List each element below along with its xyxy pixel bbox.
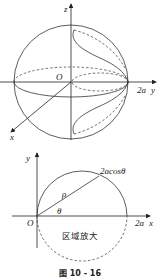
sphere-diagram: z O 2a y x — [0, 4, 156, 142]
polar-region-diagram: y O 2a x 2acosθ ρ θ 区域放大 — [12, 153, 153, 261]
y-mark-label: 2a — [137, 85, 147, 95]
region-note: 区域放大 — [62, 231, 98, 241]
polar-origin-label: O — [27, 218, 34, 228]
origin-label: O — [56, 72, 63, 82]
intersection-curve-upper — [73, 30, 128, 82]
rho-line — [37, 176, 99, 216]
polar-x-mark: 2a — [135, 218, 145, 228]
theta-label: θ — [57, 206, 62, 216]
polar-y-label: y — [25, 153, 30, 163]
circle-upper-half — [37, 171, 127, 216]
z-axis-label: z — [63, 4, 68, 14]
y-axis-label: y — [150, 85, 155, 95]
x-axis-label: x — [9, 132, 14, 142]
figure-canvas: z O 2a y x y O 2a x 2acosθ ρ θ 区域放大 图 10… — [0, 0, 162, 280]
rho-label: ρ — [61, 189, 67, 199]
curve-label: 2acosθ — [100, 166, 126, 176]
figure-caption: 图 10 - 16 — [59, 269, 101, 278]
polar-x-label: x — [148, 218, 153, 228]
